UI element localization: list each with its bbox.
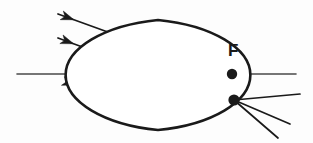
focal-point-dot xyxy=(227,69,237,79)
ray-diagram-canvas xyxy=(0,0,313,143)
image-convergence-dot xyxy=(228,94,239,105)
optics-ray-diagram-figure: F xyxy=(0,0,313,143)
focal-point-label: F xyxy=(228,42,238,59)
